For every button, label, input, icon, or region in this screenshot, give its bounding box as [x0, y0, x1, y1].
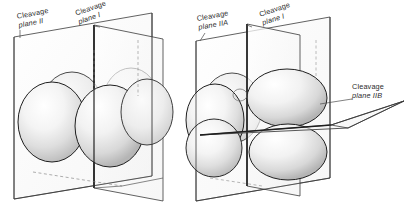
- blastomere-lower-left: [186, 119, 242, 177]
- label-cleavage-plane-IIB: Cleavage plane IIB: [352, 82, 384, 100]
- panel-right-eight-cell-stage: [186, 17, 404, 201]
- blastomere-upper-right: [247, 69, 327, 127]
- cleavage-plane-figure: [0, 0, 407, 218]
- blastomere-front-right: [121, 79, 173, 145]
- panel-left-four-cell-stage: [14, 13, 173, 201]
